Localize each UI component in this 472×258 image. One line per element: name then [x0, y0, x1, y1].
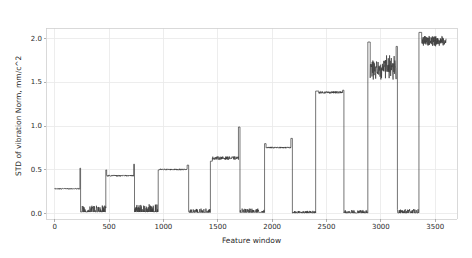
x-tick-label: 3000 — [372, 223, 390, 231]
axes-spines — [46, 28, 457, 219]
data-series-line — [55, 32, 446, 213]
x-tick-label: 2500 — [318, 223, 336, 231]
gridlines — [46, 28, 457, 219]
x-tick-label: 500 — [102, 223, 115, 231]
y-tick-label: 0.5 — [22, 166, 42, 174]
x-tick-label: 1500 — [209, 223, 227, 231]
y-tick-label: 2.0 — [22, 35, 42, 43]
y-tick-label: 1.5 — [22, 78, 42, 86]
x-tick-label: 2000 — [263, 223, 281, 231]
y-axis-label: STD of vibration Norm, mm/c^2 — [14, 55, 23, 175]
chart-figure: 0500100015002000250030003500 0.00.51.01.… — [0, 0, 472, 258]
plot-canvas — [0, 0, 472, 258]
x-tick-label: 0 — [52, 223, 56, 231]
y-tick-label: 0.0 — [22, 210, 42, 218]
x-tick-label: 3500 — [426, 223, 444, 231]
y-tick-label: 1.0 — [22, 122, 42, 130]
x-tick-label: 1000 — [155, 223, 173, 231]
x-axis-label: Feature window — [222, 236, 281, 245]
